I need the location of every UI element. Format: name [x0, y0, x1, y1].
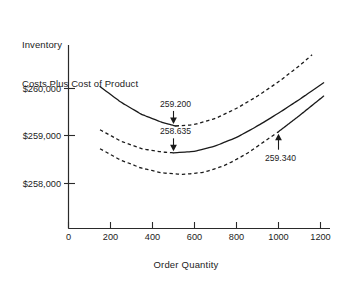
- annotation-arrow-259200: [170, 111, 177, 124]
- annotation-arrow-259340: [275, 134, 282, 150]
- chart-plot-area: $260,000 $259,000 $258,000 0 200 400 600…: [0, 0, 343, 286]
- inventory-cost-chart: Inventory Costs Plus Cost of Product $26…: [0, 0, 343, 286]
- middle-cost-curve-solid-segment-1: [174, 83, 324, 153]
- y-tick-label-258000: $258,000: [23, 179, 61, 189]
- x-tick-label-600: 600: [187, 232, 202, 242]
- annotation-label-259340: 259.340: [265, 153, 296, 163]
- x-tick-label-0: 0: [66, 232, 71, 242]
- lower-cost-curve-dashed-segment-0: [100, 132, 279, 175]
- x-tick-label-1000: 1000: [268, 232, 288, 242]
- x-axis-title: Order Quantity: [153, 259, 218, 270]
- y-tick-label-260000: $260,000: [23, 84, 61, 94]
- upper-cost-curve-dashed-segment-1: [176, 55, 313, 126]
- annotation-arrow-258635: [170, 138, 177, 151]
- x-tick-label-400: 400: [145, 232, 160, 242]
- annotation-label-258635: 258.635: [160, 126, 191, 136]
- annotation-label-259200: 259.200: [160, 99, 191, 109]
- x-tick-label-1200: 1200: [310, 232, 330, 242]
- x-tick-label-800: 800: [229, 232, 244, 242]
- lower-cost-curve-solid-segment-1: [279, 96, 324, 132]
- y-tick-label-259000: $259,000: [23, 131, 61, 141]
- x-tick-label-200: 200: [103, 232, 118, 242]
